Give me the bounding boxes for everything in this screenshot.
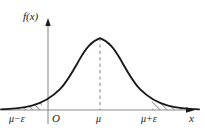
origin-label: O	[52, 113, 60, 124]
y-axis-arrow-icon	[45, 18, 50, 26]
x-axis-label: x	[189, 113, 194, 124]
mu-minus-epsilon-label: μ−ε	[9, 114, 25, 124]
normal-distribution-figure: f(x) O μ−ε μ μ+ε x	[0, 0, 205, 137]
mu-label: μ	[96, 114, 101, 124]
mu-plus-epsilon-label: μ+ε	[141, 114, 157, 124]
y-axis-label: f(x)	[23, 11, 38, 22]
